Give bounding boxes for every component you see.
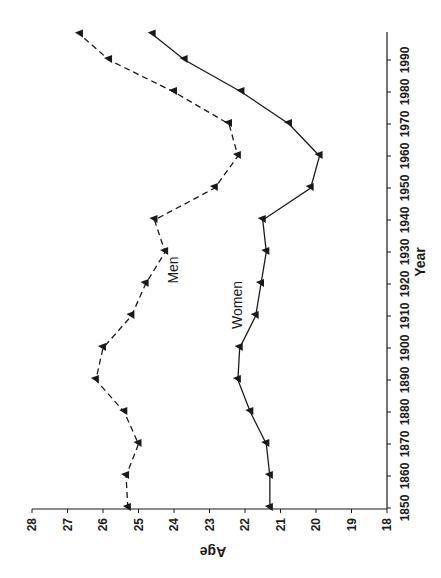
series-label-men: Men: [165, 256, 181, 283]
triangle-marker-icon: [284, 119, 292, 127]
triangle-marker-icon: [75, 29, 83, 37]
year-tick-label: 1850: [398, 494, 412, 521]
year-tick-label: 1860: [398, 462, 412, 489]
age-tick-label: 21: [274, 518, 288, 532]
year-tick-label: 1880: [398, 398, 412, 425]
year-tick-label: 1890: [398, 366, 412, 393]
age-tick-label: 24: [167, 518, 181, 532]
year-tick-label: 1980: [398, 78, 412, 105]
series-line-men: [80, 34, 238, 508]
triangle-marker-icon: [169, 87, 177, 95]
year-tick-label: 1970: [398, 110, 412, 137]
y-axis-title: Age: [200, 544, 227, 560]
triangle-marker-icon: [233, 375, 241, 383]
year-tick-label: 1900: [398, 334, 412, 361]
triangle-marker-icon: [104, 55, 112, 63]
age-tick-label: 18: [380, 518, 394, 532]
year-tick-label: 1960: [398, 142, 412, 169]
triangle-marker-icon: [235, 343, 243, 351]
triangle-marker-icon: [119, 407, 127, 415]
triangle-marker-icon: [256, 279, 264, 287]
series-label-women: Women: [229, 281, 245, 329]
year-tick-label: 1930: [398, 238, 412, 265]
triangle-marker-icon: [91, 375, 99, 383]
age-tick-label: 20: [309, 518, 323, 532]
triangle-marker-icon: [265, 503, 273, 511]
triangle-marker-icon: [126, 311, 134, 319]
triangle-marker-icon: [149, 215, 157, 223]
age-tick-label: 19: [345, 518, 359, 532]
age-tick-label: 28: [25, 518, 39, 532]
x-axis-title: Year: [412, 247, 428, 277]
triangle-marker-icon: [123, 503, 131, 511]
age-tick-label: 27: [61, 518, 75, 532]
series-group: [75, 29, 323, 511]
triangle-marker-icon: [258, 215, 266, 223]
age-tick-label: 26: [96, 518, 110, 532]
triangle-marker-icon: [121, 471, 129, 479]
triangle-marker-icon: [236, 87, 244, 95]
marriage-age-chart: 2827262524232221201918185018601870188018…: [0, 0, 441, 578]
triangle-marker-icon: [261, 439, 269, 447]
age-tick-label: 23: [203, 518, 217, 532]
year-tick-label: 1990: [398, 46, 412, 73]
year-tick-label: 1940: [398, 206, 412, 233]
year-tick-label: 1870: [398, 430, 412, 457]
year-tick-label: 1910: [398, 302, 412, 329]
triangle-marker-icon: [148, 29, 156, 37]
triangle-marker-icon: [224, 119, 232, 127]
axes: 2827262524232221201918185018601870188018…: [25, 32, 412, 531]
year-tick-label: 1950: [398, 174, 412, 201]
age-tick-label: 25: [132, 518, 146, 532]
age-tick-label: 22: [238, 518, 252, 532]
year-tick-label: 1920: [398, 270, 412, 297]
